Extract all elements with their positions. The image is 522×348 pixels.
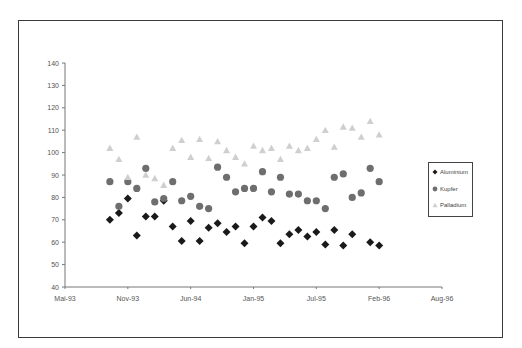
kupfer-data-point (160, 195, 167, 202)
kupfer-data-point (376, 178, 383, 185)
aluminium-data-point (348, 230, 356, 238)
aluminium-data-point (223, 228, 231, 236)
legend-label: Aluminium (440, 169, 468, 175)
aluminium-data-point (258, 214, 266, 222)
palladium-data-point (169, 145, 176, 151)
kupfer-data-point (187, 193, 194, 200)
kupfer-data-point (232, 188, 239, 195)
kupfer-data-point (142, 165, 149, 172)
palladium-data-point (232, 154, 239, 160)
aluminium-data-point (312, 228, 320, 236)
x-tick-label: Jan-95 (243, 295, 265, 302)
palladium-data-point (295, 147, 302, 153)
palladium-data-point (304, 145, 311, 151)
palladium-data-point (205, 155, 212, 161)
palladium-data-point (259, 147, 266, 153)
palladium-data-point (124, 174, 131, 180)
x-tick-label: Feb-96 (368, 295, 390, 302)
kupfer-data-point (196, 203, 203, 210)
aluminium-data-point (196, 237, 204, 245)
palladium-data-point (187, 154, 194, 160)
data-points (106, 118, 383, 250)
y-tick-label: 110 (48, 127, 59, 134)
palladium-data-point (115, 156, 122, 162)
aluminium-data-point (276, 239, 284, 247)
circle-marker-icon (432, 186, 438, 192)
aluminium-data-point (241, 239, 249, 247)
palladium-data-point (277, 156, 284, 162)
aluminium-data-point (294, 226, 302, 234)
aluminium-data-point (142, 212, 150, 220)
aluminium-data-point (321, 240, 329, 248)
aluminium-data-point (232, 223, 240, 231)
kupfer-data-point (349, 194, 356, 201)
palladium-data-point (142, 172, 149, 178)
kupfer-data-point (331, 174, 338, 181)
kupfer-data-point (241, 185, 248, 192)
kupfer-data-point (169, 178, 176, 185)
aluminium-data-point (115, 209, 123, 217)
kupfer-data-point (340, 170, 347, 177)
y-tick-label: 80 (51, 194, 59, 201)
x-tick-label: Mai-93 (54, 295, 76, 302)
x-tick-label: Jun-94 (180, 295, 202, 302)
palladium-data-point (160, 182, 167, 188)
kupfer-data-point (304, 197, 311, 204)
aluminium-data-point (169, 223, 177, 231)
kupfer-data-point (151, 198, 158, 205)
palladium-data-point (133, 133, 140, 139)
kupfer-data-point (178, 197, 185, 204)
palladium-data-point (349, 124, 356, 130)
diamond-marker-icon (432, 169, 438, 175)
palladium-data-point (250, 142, 257, 148)
y-tick-label: 100 (47, 149, 59, 156)
kupfer-data-point (133, 185, 140, 192)
palladium-data-point (322, 127, 329, 133)
aluminium-data-point (187, 217, 195, 225)
y-tick-label: 70 (51, 216, 59, 223)
palladium-data-point (331, 144, 338, 150)
aluminium-data-point (124, 195, 132, 203)
x-tick-label: Aug-96 (431, 295, 454, 303)
y-tick-label: 50 (51, 261, 59, 268)
aluminium-data-point (303, 233, 311, 241)
kupfer-data-point (286, 190, 293, 197)
palladium-data-point (106, 145, 113, 151)
x-tick-label: Jul-95 (307, 295, 326, 302)
y-tick-label: 120 (47, 104, 59, 111)
legend-label: Palladium (440, 202, 466, 208)
kupfer-data-point (115, 203, 122, 210)
palladium-data-point (340, 123, 347, 129)
kupfer-data-point (322, 205, 329, 212)
aluminium-data-point (339, 242, 347, 250)
triangle-marker-icon (432, 202, 438, 208)
aluminium-data-point (205, 224, 213, 232)
palladium-data-point (286, 142, 293, 148)
kupfer-data-point (367, 165, 374, 172)
aluminium-data-point (330, 226, 338, 234)
aluminium-data-point (375, 242, 383, 250)
palladium-data-point (178, 137, 185, 143)
aluminium-data-point (250, 223, 258, 231)
y-tick-label: 90 (51, 172, 59, 179)
aluminium-data-point (285, 230, 293, 238)
palladium-data-point (196, 136, 203, 142)
palladium-data-point (367, 118, 374, 124)
legend-item-aluminium: Aluminium (432, 169, 468, 175)
aluminium-data-point (106, 216, 114, 224)
aluminium-data-point (178, 237, 186, 245)
kupfer-data-point (214, 164, 221, 171)
y-tick-label: 40 (51, 284, 59, 291)
kupfer-data-point (268, 188, 275, 195)
y-tick-label: 130 (47, 82, 59, 89)
palladium-data-point (241, 160, 248, 166)
x-tick-label: Nov-93 (117, 295, 140, 302)
palladium-data-point (358, 133, 365, 139)
legend-item-palladium: Palladium (432, 202, 466, 208)
kupfer-data-point (250, 185, 257, 192)
kupfer-data-point (205, 205, 212, 212)
kupfer-data-point (223, 174, 230, 181)
palladium-data-point (151, 175, 158, 181)
legend-item-kupfer: Kupfer (432, 186, 458, 192)
aluminium-data-point (366, 238, 374, 246)
